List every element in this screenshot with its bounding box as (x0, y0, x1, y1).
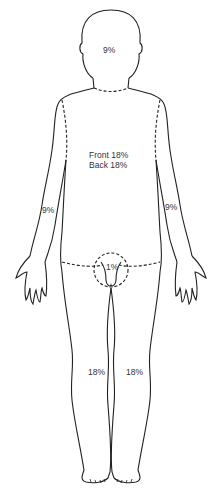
left-hand-outline (16, 256, 47, 304)
right-hand-outline (175, 256, 206, 304)
neck-outline (93, 78, 129, 88)
perineum-percent-label: 1% (106, 262, 118, 272)
right-shoulder-dashed (155, 100, 160, 160)
right-leg-inner (111, 288, 115, 478)
head-outline (80, 10, 142, 78)
left-leg-percent-label: 18% (88, 367, 105, 377)
left-arm-percent-label: 9% (42, 205, 54, 215)
trunk-back-label: Back 18% (89, 160, 127, 170)
neck-dashed-line (94, 88, 128, 92)
head-percent-label: 9% (103, 45, 115, 55)
left-leg-inner (107, 288, 111, 478)
right-leg-percent-label: 18% (126, 367, 143, 377)
right-arm-percent-label: 9% (165, 202, 177, 212)
right-leg-outer (114, 272, 160, 483)
body-outline (0, 0, 223, 495)
trunk-front-label: Front 18% (89, 150, 128, 160)
left-shoulder-dashed (62, 100, 67, 160)
left-leg-outer (62, 272, 108, 483)
